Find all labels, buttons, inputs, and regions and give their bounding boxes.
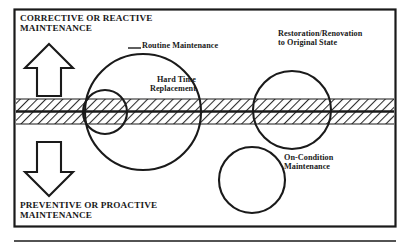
label-corrective-maintenance: CORRECTIVE OR REACTIVE MAINTENANCE — [20, 13, 195, 34]
label-restoration-renovation: Restoration/Renovation to Original State — [278, 29, 400, 47]
label-routine-maintenance: Routine Maintenance — [142, 41, 252, 50]
label-preventive-maintenance: PREVENTIVE OR PROACTIVE MAINTENANCE — [20, 200, 205, 221]
label-on-condition-maintenance: On-Condition Maintenance — [284, 153, 384, 171]
hatched-divider-band — [16, 99, 394, 124]
label-hard-time-replacement: Hard Time Replacement — [116, 75, 196, 93]
figure-root: CORRECTIVE OR REACTIVE MAINTENANCE PREVE… — [0, 0, 410, 248]
